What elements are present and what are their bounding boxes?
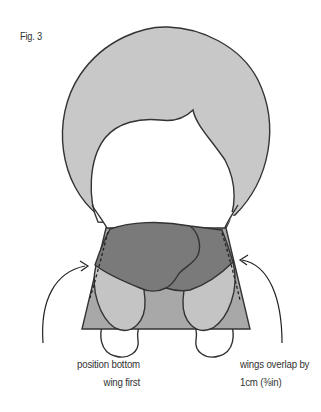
arrow-left bbox=[43, 261, 88, 343]
annotation-right: wings overlap by 1cm (⅜in) bbox=[240, 355, 321, 391]
annotation-left-line1: position bottom bbox=[26, 355, 140, 373]
arrow-right bbox=[240, 255, 282, 343]
annotation-right-line1: wings overlap by bbox=[240, 355, 321, 373]
annotation-right-line2: 1cm (⅜in) bbox=[240, 373, 321, 391]
annotation-left-line2: wing first bbox=[26, 373, 140, 391]
annotation-left: position bottom wing first bbox=[26, 355, 140, 391]
doll-diagram bbox=[0, 0, 321, 412]
